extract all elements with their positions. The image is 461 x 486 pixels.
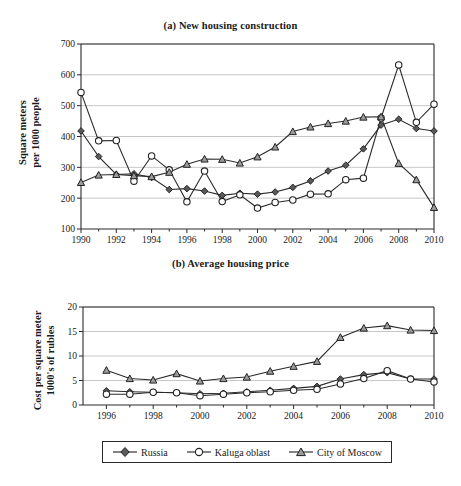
panel-a-plot: 1002003004005006007001990199219941996199…	[0, 0, 461, 250]
panel-b-y-axis-label: Cost per square meter 1000's of rubles	[32, 296, 57, 426]
svg-text:2000: 2000	[248, 235, 267, 245]
svg-text:5: 5	[72, 376, 77, 386]
svg-text:2004: 2004	[284, 411, 303, 421]
svg-text:700: 700	[61, 39, 76, 49]
legend-label-kaluga-oblast: Kaluga oblast	[215, 447, 270, 458]
svg-text:15: 15	[68, 327, 78, 337]
svg-text:200: 200	[61, 194, 76, 204]
svg-text:2000: 2000	[191, 411, 210, 421]
panel-new-housing-construction: (a) New housing construction Square mete…	[0, 0, 461, 250]
figure-container: (a) New housing construction Square mete…	[0, 0, 461, 486]
svg-text:0: 0	[72, 400, 77, 410]
open-circle-icon	[186, 446, 212, 458]
svg-text:1996: 1996	[97, 411, 116, 421]
svg-text:1990: 1990	[72, 235, 91, 245]
svg-text:20: 20	[68, 302, 78, 312]
svg-text:1998: 1998	[144, 411, 163, 421]
legend-item-russia: Russia	[112, 446, 168, 458]
svg-text:2008: 2008	[378, 411, 397, 421]
legend-item-kaluga-oblast: Kaluga oblast	[186, 446, 270, 458]
svg-text:2006: 2006	[331, 411, 350, 421]
svg-text:400: 400	[61, 132, 76, 142]
legend-item-city-of-moscow: City of Moscow	[288, 446, 382, 458]
filled-diamond-icon	[112, 446, 138, 458]
legend-label-city-of-moscow: City of Moscow	[317, 447, 382, 458]
svg-text:600: 600	[61, 70, 76, 80]
filled-triangle-icon	[288, 446, 314, 458]
svg-text:2004: 2004	[319, 235, 338, 245]
svg-text:1994: 1994	[142, 235, 161, 245]
legend: Russia Kaluga oblast City of Moscow	[102, 441, 392, 463]
svg-text:2002: 2002	[237, 411, 256, 421]
svg-text:2008: 2008	[389, 235, 408, 245]
svg-text:2006: 2006	[354, 235, 373, 245]
svg-text:300: 300	[61, 163, 76, 173]
svg-text:100: 100	[61, 224, 76, 234]
svg-text:1996: 1996	[177, 235, 196, 245]
svg-text:2010: 2010	[425, 411, 444, 421]
svg-text:10: 10	[68, 351, 78, 361]
svg-text:2002: 2002	[283, 235, 302, 245]
svg-text:2010: 2010	[425, 235, 444, 245]
svg-text:500: 500	[61, 101, 76, 111]
svg-text:1992: 1992	[107, 235, 126, 245]
legend-label-russia: Russia	[141, 447, 168, 458]
svg-text:1998: 1998	[213, 235, 232, 245]
